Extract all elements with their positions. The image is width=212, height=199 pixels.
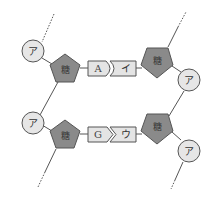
left-backbone [38,14,58,187]
left-top-dashed-line [42,14,54,42]
base-u-label: ウ [121,129,131,140]
left-bottom-dashed-line [38,172,45,187]
bottom-left-phosphate-label: ア [28,118,38,129]
bottom-right-phosphate: ア [178,140,200,162]
right-bottom-sugar-phosphate-link [172,132,181,140]
right-backbone [168,12,186,189]
top-right-sugar-label: 糖 [153,55,162,66]
top-left-sugar-label: 糖 [61,64,70,75]
right-bottom-solid-line [175,162,183,180]
base-g: G [88,127,113,142]
top-right-phosphate: ア [178,69,200,91]
bottom-left-sugar: 糖 [50,120,80,148]
left-top-phosphate-sugar-link [42,58,52,64]
left-bottom-solid-line [45,149,56,172]
bottom-right-phosphate-label: ア [184,146,194,157]
bottom-right-sugar-label: 糖 [153,121,162,132]
top-right-phosphate-label: ア [184,75,194,86]
base-a: A [88,61,110,76]
bottom-left-sugar-label: 糖 [61,130,70,141]
bottom-left-phosphate: ア [22,112,44,134]
base-g-label: G [94,129,102,140]
top-right-sugar: 糖 [141,48,173,78]
base-i: イ [110,61,136,76]
right-top-solid-line [168,27,178,47]
right-top-dashed-line [178,12,186,27]
base-a-label: A [93,63,102,74]
right-top-sugar-phosphate-link [172,66,181,72]
bottom-right-sugar: 糖 [141,114,173,144]
right-bottom-dashed-line [171,180,175,189]
top-left-phosphate: ア [22,40,44,62]
top-left-sugar: 糖 [50,54,80,82]
right-phosphate-sugar-link [169,91,184,116]
base-i-label: イ [121,63,131,74]
base-u: ウ [110,127,136,142]
top-left-phosphate-label: ア [28,46,38,57]
dna-diagram: ア 糖 A イ 糖 ア ア 糖 G ウ [0,0,212,199]
left-sugar-phosphate-link [40,82,58,115]
